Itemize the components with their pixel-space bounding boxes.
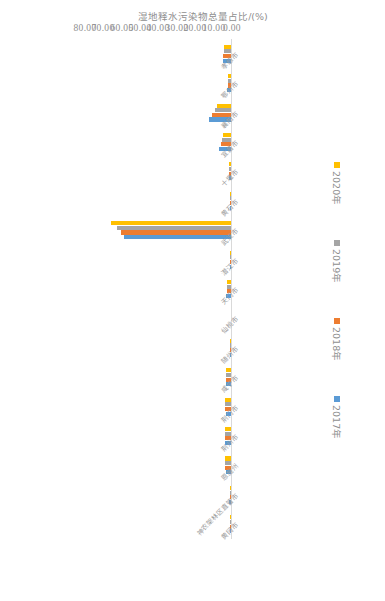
bar-group <box>85 45 232 63</box>
value-tick-label: 80.00 <box>63 23 107 33</box>
bar-group <box>85 398 232 416</box>
legend-label: 2020年 <box>330 171 344 205</box>
bar <box>124 235 231 239</box>
legend-label: 2017年 <box>330 405 344 439</box>
legend-item[interactable]: 2017年 <box>327 396 349 466</box>
bar-group <box>85 368 232 386</box>
bar-group <box>85 456 232 474</box>
bar <box>228 74 231 78</box>
bar-group <box>85 339 232 357</box>
bar-group <box>85 162 232 180</box>
legend-item[interactable]: 2018年 <box>327 318 349 388</box>
rotated-figure-wrapper: 黄冈市神农架林区直管市恩施州荆州市荆门市咸宁市随州市仙桃市天门市潜江市武汉市黄石… <box>0 0 385 601</box>
value-axis-title: 湿地释水污染物总量占比/(%) <box>43 9 363 23</box>
bar <box>229 162 231 166</box>
legend-item[interactable]: 2019年 <box>327 240 349 310</box>
bar-group <box>85 104 232 122</box>
bar-group <box>85 74 232 92</box>
chart-figure: 黄冈市神农架林区直管市恩施州荆州市荆门市咸宁市随州市仙桃市天门市潜江市武汉市黄石… <box>0 0 385 601</box>
bar <box>223 133 231 137</box>
bar <box>230 515 231 519</box>
legend-swatch <box>334 162 340 168</box>
plot-area: 黄冈市神农架林区直管市恩施州荆州市荆门市咸宁市随州市仙桃市天门市潜江市武汉市黄石… <box>85 39 232 539</box>
bar <box>111 221 231 225</box>
bar-group <box>85 309 232 327</box>
legend-swatch <box>334 396 340 402</box>
bar <box>226 456 232 460</box>
bar <box>217 104 231 108</box>
bar-group <box>85 427 232 445</box>
bar <box>225 398 231 402</box>
bar <box>224 45 231 49</box>
bar <box>230 251 231 255</box>
legend-label: 2018年 <box>330 327 344 361</box>
bar <box>226 368 231 372</box>
bar-group <box>85 221 232 239</box>
legend-swatch <box>334 318 340 324</box>
bar-group <box>85 192 232 210</box>
bar <box>121 230 231 234</box>
chart-legend: 2017年2018年2019年2020年 <box>327 166 349 466</box>
bar <box>117 226 231 230</box>
legend-item[interactable]: 2020年 <box>327 162 349 232</box>
bar-group <box>85 280 232 298</box>
bar-group <box>85 251 232 269</box>
bar-group <box>85 133 232 151</box>
bar <box>225 427 231 431</box>
legend-swatch <box>334 240 340 246</box>
bar-group <box>85 486 232 504</box>
bar <box>227 280 231 284</box>
legend-label: 2019年 <box>330 249 344 283</box>
